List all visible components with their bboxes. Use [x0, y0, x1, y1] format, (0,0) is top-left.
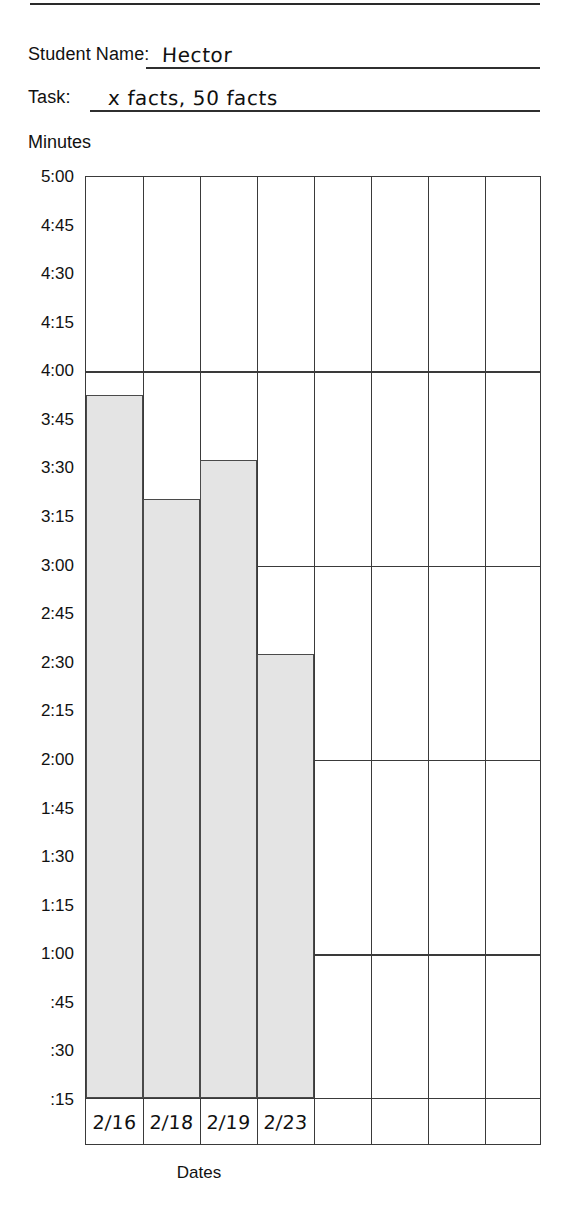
task-underline	[90, 110, 540, 112]
y-axis-tick-label: 5:00	[8, 168, 74, 185]
y-axis-tick-label: 4:00	[8, 362, 74, 379]
bar[interactable]	[257, 654, 314, 1098]
bar[interactable]	[200, 460, 257, 1098]
top-divider	[30, 3, 540, 5]
task-value[interactable]: x facts, 50 facts	[108, 87, 279, 109]
y-axis-tick-label: 2:45	[8, 605, 74, 622]
grid-column-divider	[485, 177, 486, 1098]
task-label: Task:	[28, 85, 71, 109]
bar[interactable]	[86, 395, 143, 1098]
student-name-label: Student Name:	[28, 42, 149, 66]
bar-chart-plot-area	[85, 176, 541, 1099]
y-axis-tick-labels: 5:004:454:304:154:003:453:303:153:002:45…	[0, 176, 74, 1099]
y-axis-tick-label: 3:00	[8, 556, 74, 573]
grid-hour-line	[86, 371, 540, 372]
x-axis-tick-labels: 2/162/182/192/23	[85, 1099, 541, 1145]
y-axis-tick-label: 2:30	[8, 653, 74, 670]
x-axis-title: Dates	[85, 1163, 313, 1183]
grid-column-divider	[428, 177, 429, 1098]
y-axis-tick-label: 4:45	[8, 216, 74, 233]
task-row: Task: x facts, 50 facts	[28, 85, 542, 115]
y-axis-tick-label: 1:30	[8, 848, 74, 865]
y-axis-title: Minutes	[28, 131, 91, 153]
y-axis-tick-label: :45	[8, 993, 74, 1010]
student-name-row: Student Name: Hector	[28, 42, 542, 72]
x-axis-tick-label[interactable]	[427, 1099, 486, 1144]
y-axis-tick-label: 4:30	[8, 265, 74, 282]
student-name-underline	[146, 67, 540, 69]
worksheet-page: Student Name: Hector Task: x facts, 50 f…	[0, 0, 566, 1220]
bar[interactable]	[143, 499, 200, 1098]
y-axis-tick-label: 3:15	[8, 508, 74, 525]
x-axis-tick-label[interactable]: 2/19	[199, 1099, 258, 1144]
x-axis-tick-label[interactable]	[370, 1099, 429, 1144]
y-axis-tick-label: 3:30	[8, 459, 74, 476]
student-name-value[interactable]: Hector	[162, 44, 233, 66]
y-axis-tick-label: 2:00	[8, 750, 74, 767]
y-axis-tick-label: :30	[8, 1042, 74, 1059]
x-axis-tick-label[interactable]: 2/18	[142, 1099, 201, 1144]
y-axis-tick-label: 4:15	[8, 313, 74, 330]
y-axis-tick-label: 2:15	[8, 702, 74, 719]
x-axis-tick-label[interactable]: 2/23	[256, 1099, 315, 1144]
y-axis-tick-label: 3:45	[8, 410, 74, 427]
y-axis-tick-label: :15	[8, 1091, 74, 1108]
grid-column-divider	[371, 177, 372, 1098]
y-axis-tick-label: 1:45	[8, 799, 74, 816]
y-axis-tick-label: 1:15	[8, 896, 74, 913]
x-axis-tick-label[interactable]	[313, 1099, 372, 1144]
grid-column-divider	[314, 177, 315, 1098]
y-axis-tick-label: 1:00	[8, 945, 74, 962]
x-axis-tick-label[interactable]	[484, 1099, 543, 1144]
x-axis-tick-label[interactable]: 2/16	[85, 1099, 144, 1144]
